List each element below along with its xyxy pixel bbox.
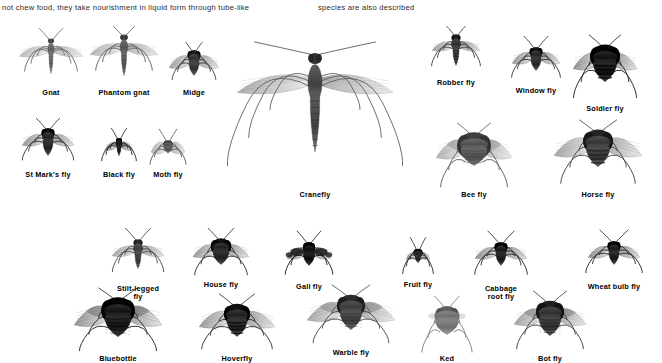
house-fly-caption: House fly <box>204 281 239 289</box>
ked-illustration <box>408 292 486 354</box>
ked-caption: Ked <box>440 355 454 363</box>
body-text-left-column: not chew food, they take nourishment in … <box>2 3 249 12</box>
body-text-right-column: species are also described <box>318 3 414 12</box>
specimen-warble-fly: Warble fly <box>292 282 410 357</box>
moth-fly-caption: Moth fly <box>153 171 183 179</box>
window-fly-caption: Window fly <box>516 87 556 95</box>
hoverfly-caption: Hoverfly <box>222 355 253 363</box>
bot-fly-illustration <box>498 288 602 354</box>
warble-fly-caption: Warble fly <box>333 349 370 357</box>
bee-fly-illustration <box>422 114 526 190</box>
horse-fly-caption: Horse fly <box>581 191 614 199</box>
phantom-gnat-illustration <box>80 26 168 88</box>
specimen-robber-fly: Robber fly <box>418 26 494 87</box>
bee-fly-caption: Bee fly <box>461 191 486 199</box>
moth-fly-illustration <box>140 128 196 170</box>
gnat-caption: Gnat <box>42 89 59 97</box>
specimen-horse-fly: Horse fly <box>540 112 656 199</box>
specimen-black-fly: Black fly <box>92 128 146 179</box>
cranefly-illustration <box>226 18 404 190</box>
specimen-wheat-bulb-fly: Wheat bulb fly <box>570 228 658 291</box>
bot-fly-caption: Bot fly <box>538 355 562 363</box>
gall-fly-illustration <box>272 230 346 282</box>
stilt-legged-fly-illustration <box>98 228 178 284</box>
specimen-bluebottle: Bluebottle <box>58 286 178 363</box>
black-fly-caption: Black fly <box>103 171 135 179</box>
midge-caption: Midge <box>183 89 205 97</box>
specimen-hoverfly: Hoverfly <box>182 292 292 363</box>
specimen-st-marks-fly: St Mark's fly <box>8 118 88 179</box>
fruit-fly-illustration <box>394 236 442 280</box>
wheat-bulb-fly-illustration <box>570 228 658 282</box>
st-marks-fly-illustration <box>8 118 88 170</box>
specimen-cranefly: Cranefly <box>226 18 404 199</box>
cabbage-root-fly-illustration <box>460 228 542 284</box>
specimen-phantom-gnat: Phantom gnat <box>80 26 168 97</box>
midge-illustration <box>160 42 228 88</box>
specimen-bot-fly: Bot fly <box>498 288 602 363</box>
st-marks-fly-caption: St Mark's fly <box>25 171 70 179</box>
bluebottle-illustration <box>58 286 178 354</box>
warble-fly-illustration <box>292 282 410 348</box>
specimen-midge: Midge <box>160 42 228 97</box>
bluebottle-caption: Bluebottle <box>99 355 137 363</box>
hoverfly-illustration <box>182 292 292 354</box>
soldier-fly-illustration <box>556 28 654 104</box>
specimen-soldier-fly: Soldier fly <box>556 28 654 113</box>
robber-fly-illustration <box>418 26 494 78</box>
specimen-moth-fly: Moth fly <box>140 128 196 179</box>
horse-fly-illustration <box>540 112 656 190</box>
black-fly-illustration <box>92 128 146 170</box>
robber-fly-caption: Robber fly <box>437 79 475 87</box>
cranefly-caption: Cranefly <box>300 191 331 199</box>
specimen-ked: Ked <box>408 292 486 363</box>
phantom-gnat-caption: Phantom gnat <box>98 89 149 97</box>
house-fly-illustration <box>180 228 262 280</box>
specimen-bee-fly: Bee fly <box>422 114 526 199</box>
specimen-house-fly: House fly <box>180 228 262 289</box>
